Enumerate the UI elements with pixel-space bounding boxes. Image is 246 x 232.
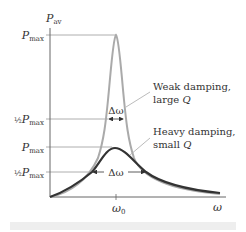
heavy-leader-line [130, 138, 150, 155]
delta-omega-heavy-label: Δω [108, 167, 123, 178]
x-axis-label: ω [213, 201, 222, 214]
half-pmax-weak-label: ½Pmax [14, 113, 44, 127]
resonance-plot: Δω Δω Weak damping, large Q Heavy dampin… [0, 0, 246, 232]
heavy-damping-curve [50, 148, 220, 197]
bottom-band [10, 222, 236, 230]
delta-omega-weak-label: Δω [108, 105, 123, 116]
pmax-weak-label: Pmax [21, 29, 44, 43]
weak-leader-line [126, 92, 150, 107]
weak-damping-label-line2: large Q [153, 94, 191, 105]
pmax-heavy-label: Pmax [21, 141, 44, 155]
y-axis-label: Pav [45, 12, 62, 26]
omega0-label: ω0 [112, 202, 125, 216]
weak-damping-curve [50, 35, 220, 197]
heavy-damping-label-line2: small Q [153, 139, 191, 150]
delta-omega-weak: Δω [108, 105, 123, 119]
axes [50, 28, 226, 200]
resonance-diagram: Δω Δω Weak damping, large Q Heavy dampin… [0, 0, 246, 232]
guide-lines [46, 35, 116, 172]
half-pmax-heavy-label: ½Pmax [14, 166, 44, 180]
heavy-damping-label-line1: Heavy damping, [153, 126, 236, 137]
delta-omega-heavy: Δω [93, 167, 145, 178]
weak-damping-label-line1: Weak damping, [153, 81, 231, 92]
